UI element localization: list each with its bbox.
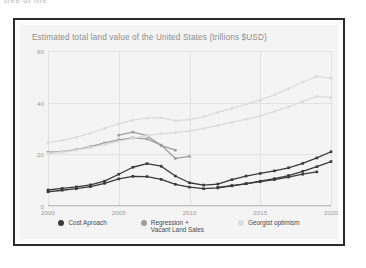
x-tick-label: 2020 — [324, 209, 338, 216]
series-marker — [245, 118, 248, 121]
legend-swatch-icon — [238, 220, 244, 226]
legend-item[interactable]: Georgist optimism — [238, 219, 300, 226]
series-marker — [202, 115, 205, 118]
legend-item[interactable]: Regression + Vacant Land Sales — [141, 219, 204, 233]
series-marker — [245, 175, 248, 178]
series-marker — [174, 175, 177, 178]
y-tick-label: 20 — [37, 151, 44, 158]
series-marker — [132, 175, 135, 178]
series-marker — [259, 115, 262, 118]
legend-label: Regression + Vacant Land Sales — [151, 219, 204, 233]
series-marker — [316, 157, 319, 160]
chart-legend: Cost AproachRegression + Vacant Land Sal… — [20, 219, 338, 233]
series-marker — [259, 172, 262, 175]
series-marker — [330, 77, 333, 80]
series-marker — [330, 160, 333, 163]
series-marker — [202, 127, 205, 130]
series-marker — [146, 175, 149, 178]
series-marker — [146, 162, 149, 165]
gridline-horizontal — [48, 206, 331, 207]
series-marker — [117, 140, 120, 143]
chart-panel: Estimated total land value of the United… — [20, 25, 338, 239]
series-marker — [117, 178, 120, 181]
series-marker — [273, 110, 276, 113]
series-marker — [103, 182, 106, 185]
plot-area: 0204060 20002005201020152020 — [48, 51, 331, 206]
series-marker — [160, 132, 163, 135]
series-marker — [89, 132, 92, 135]
series-plot — [48, 51, 331, 206]
series-marker — [245, 182, 248, 185]
series-marker — [316, 171, 319, 174]
series-marker — [174, 119, 177, 122]
figure-card: Estimated total land value of the United… — [13, 18, 345, 246]
series-marker — [188, 155, 191, 158]
series-marker — [202, 184, 205, 187]
series-marker — [117, 134, 120, 137]
series-marker — [75, 149, 78, 152]
series-marker — [188, 181, 191, 184]
series-marker — [89, 146, 92, 149]
series-marker — [47, 141, 50, 144]
series-marker — [103, 143, 106, 146]
series-marker — [117, 123, 120, 126]
series-marker — [103, 127, 106, 130]
series-marker — [188, 186, 191, 189]
series-marker — [202, 187, 205, 190]
series-marker — [160, 165, 163, 168]
series-marker — [160, 144, 163, 147]
legend-label: Cost Aproach — [68, 219, 106, 226]
series-marker — [217, 111, 220, 114]
series-marker — [301, 100, 304, 103]
series-marker — [61, 189, 64, 192]
series-marker — [174, 149, 177, 152]
series-marker — [47, 190, 50, 193]
series-marker — [217, 186, 220, 189]
series-marker — [259, 99, 262, 102]
series-marker — [316, 165, 319, 168]
x-tick-label: 2000 — [41, 209, 55, 216]
chart-title: Estimated total land value of the United… — [32, 33, 267, 42]
legend-item[interactable]: Cost Aproach — [58, 219, 106, 226]
y-tick-label: 40 — [37, 99, 44, 106]
series-marker — [330, 96, 333, 99]
series-marker — [61, 139, 64, 142]
series-marker — [132, 166, 135, 169]
series-marker — [61, 151, 64, 154]
series-marker — [75, 187, 78, 190]
series-marker — [245, 103, 248, 106]
series-marker — [188, 130, 191, 133]
series-marker — [231, 184, 234, 187]
series-marker — [287, 166, 290, 169]
series-marker — [188, 118, 191, 121]
legend-swatch-icon — [141, 220, 147, 226]
series-marker — [146, 134, 149, 137]
series-marker — [273, 94, 276, 97]
series-marker — [231, 121, 234, 124]
clipped-caption-text: tree of life — [4, 0, 47, 3]
series-marker — [330, 150, 333, 153]
series-marker — [75, 136, 78, 139]
y-tick-label: 60 — [37, 48, 44, 55]
series-marker — [47, 152, 50, 155]
legend-label: Georgist optimism — [248, 219, 300, 226]
series-marker — [273, 170, 276, 173]
series-marker — [160, 116, 163, 119]
series-marker — [301, 170, 304, 173]
series-marker — [132, 131, 135, 134]
series-marker — [146, 117, 149, 120]
series-marker — [174, 183, 177, 186]
x-tick-label: 2010 — [183, 209, 197, 216]
series-marker — [231, 178, 234, 181]
series-marker — [316, 95, 319, 98]
series-marker — [301, 162, 304, 165]
series-marker — [146, 138, 149, 141]
legend-swatch-icon — [58, 220, 64, 226]
x-tick-label: 2015 — [253, 209, 267, 216]
series-marker — [259, 180, 262, 183]
series-marker — [316, 75, 319, 78]
series-marker — [160, 178, 163, 181]
x-tick-label: 2005 — [112, 209, 126, 216]
series-marker — [117, 173, 120, 176]
series-line — [47, 75, 333, 144]
